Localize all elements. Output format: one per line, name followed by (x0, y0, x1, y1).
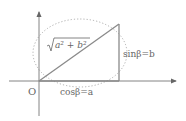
hypotenuse (39, 24, 119, 81)
hypotenuse-label: a² + b² (55, 40, 87, 50)
horizontal-side-label: cosβ=a (60, 87, 94, 97)
diagram-canvas: O a² + b² sinβ=b cosβ=a (0, 0, 186, 121)
dotted-circle (33, 19, 127, 87)
vertical-side-label: sinβ=b (123, 49, 155, 59)
origin-label: O (28, 86, 36, 97)
